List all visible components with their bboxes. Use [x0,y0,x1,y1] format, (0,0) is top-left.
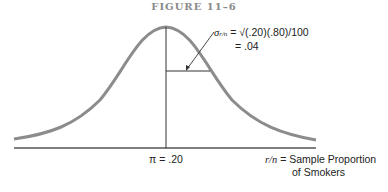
annotation-arrow [187,32,214,69]
sigma-subscript: r/n [219,30,227,38]
formula-rhs: = √(.20)(.80)/100 [230,26,308,38]
x-axis-variable: r/n [265,154,277,165]
x-axis-label-line2: of Smokers [292,166,345,178]
mean-label: π = .20 [149,153,183,165]
sigma-formula: σr/n = √(.20)(.80)/100 [214,26,309,38]
formula-result: = .04 [235,40,259,52]
normal-curve [14,27,316,140]
x-axis-label-line1: = Sample Proportion [277,153,376,165]
x-axis-label: r/n = Sample Proportion [265,153,376,165]
